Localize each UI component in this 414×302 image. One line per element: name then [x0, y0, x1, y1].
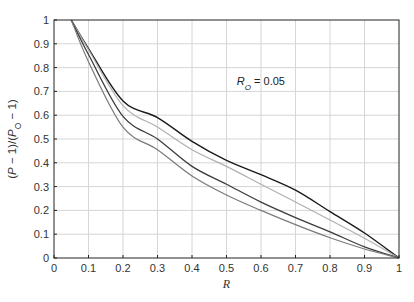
x-tick-label: 0.7 — [288, 262, 303, 274]
y-tick-label: 0.1 — [34, 228, 49, 240]
x-tick-label: 0.6 — [253, 262, 268, 274]
x-axis-label: R — [222, 277, 231, 291]
x-tick-label: 1 — [396, 262, 402, 274]
chart: 00.10.20.30.40.50.60.70.80.91 00.10.20.3… — [0, 0, 414, 302]
line-chart-svg: 00.10.20.30.40.50.60.70.80.91 00.10.20.3… — [0, 0, 414, 302]
y-tick-label: 0.5 — [34, 133, 49, 145]
x-tick-label: 0.3 — [150, 262, 165, 274]
x-tick-label: 0.5 — [219, 262, 234, 274]
y-tick-label: 0.6 — [34, 109, 49, 121]
y-tick-label: 0.4 — [34, 157, 49, 169]
y-tick-label: 1 — [43, 14, 49, 26]
x-tick-label: 0.1 — [81, 262, 96, 274]
x-tick-label: 0.9 — [357, 262, 372, 274]
y-tick-label: 0.7 — [34, 85, 49, 97]
y-axis-label: (P − 1)/(PO − 1) — [6, 99, 23, 179]
y-tick-label: 0.2 — [34, 204, 49, 216]
y-tick-label: 0 — [43, 252, 49, 264]
x-tick-label: 0 — [51, 262, 57, 274]
y-tick-label: 0.9 — [34, 38, 49, 50]
x-tick-label: 0.8 — [322, 262, 337, 274]
x-tick-label: 0.4 — [184, 262, 199, 274]
y-tick-label: 0.3 — [34, 181, 49, 193]
x-tick-label: 0.2 — [115, 262, 130, 274]
y-tick-label: 0.8 — [34, 62, 49, 74]
